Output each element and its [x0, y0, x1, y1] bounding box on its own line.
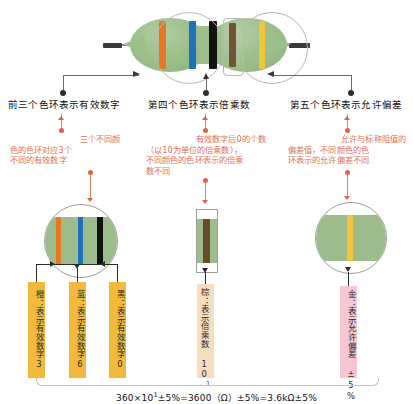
- formula-base: 360×10: [116, 393, 153, 403]
- explanation-first-three-line-2: 色的色环对应3个: [10, 145, 120, 156]
- leader-arrow-left: [133, 71, 140, 77]
- magnifier-outline-multiplier: [223, 18, 244, 76]
- leader-dot-right: [348, 90, 354, 96]
- summary-brace-left: [36, 378, 207, 386]
- leader-arrow-middle: [203, 73, 209, 79]
- leader-line-left-horizontal: [63, 75, 139, 76]
- detail-band-black: [97, 217, 103, 265]
- tolerance-arrow: [345, 267, 351, 272]
- multiplier-connector-v: [205, 272, 206, 284]
- left-lead-cap: [103, 43, 122, 48]
- detail-circle-tolerance: [315, 202, 387, 274]
- red-line-right-bottom: [347, 172, 348, 198]
- multiplier-arrow: [202, 268, 208, 273]
- digit-arrow-black: [100, 261, 105, 267]
- tolerance-connector-v: [348, 272, 349, 286]
- red-arrow-left-bottom: [87, 198, 93, 202]
- explanation-fourth-line-3: 不同颜色的色环表示的倍乘: [146, 155, 266, 166]
- result-formula: 360×101±5%=3600（Ω）±5%=3.6kΩ±5%: [116, 391, 317, 404]
- explanation-fourth: 有效数字后0的个数 （以10为单位的倍乘数）， 不同颜色的色环表示的倍乘 数不同: [146, 134, 266, 176]
- explanation-fourth-line-4: 数不同: [146, 166, 266, 177]
- digit-connector-black-v: [117, 264, 118, 282]
- red-dot-left-top: [59, 128, 64, 133]
- red-arrow-right-top: [344, 116, 350, 120]
- explanation-fourth-line-2: （以10为单位的倍乘数），: [146, 145, 266, 156]
- red-line-left-bottom: [90, 172, 91, 200]
- explanation-fifth-line-1: 允许与标称阻值的: [288, 134, 406, 145]
- detail-band-gold: [347, 215, 353, 261]
- leader-dot-middle: [203, 90, 209, 96]
- detail-band-orange: [56, 217, 61, 265]
- band-2-blue: [189, 21, 196, 69]
- band-3-black: [209, 21, 217, 69]
- red-line-middle-bottom: [205, 180, 206, 202]
- digit-arrow-orange: [50, 261, 55, 267]
- digit-connector-orange-v: [36, 264, 37, 282]
- red-arrow-right-bottom: [344, 196, 350, 200]
- digit-connector-blue-v: [77, 268, 78, 282]
- red-arrow-middle-top: [202, 116, 208, 120]
- right-lead-cap: [289, 43, 310, 48]
- leader-line-right-horizontal: [272, 75, 352, 76]
- chip-orange-digit3: 橙：表示有效数字3: [28, 282, 45, 378]
- red-arrow-middle-bottom: [202, 200, 208, 204]
- red-dot-middle-bottom: [203, 178, 208, 183]
- red-dot-left-bottom: [88, 170, 93, 175]
- band-1-orange: [159, 21, 166, 69]
- leader-arrow-right: [267, 71, 274, 77]
- chip-brown-multiplier-text: 棕：表示倍乘数 10: [199, 288, 209, 380]
- chip-black-digit0: 黑：表示有效数字0: [109, 282, 126, 378]
- detail-rect-multiplier: [196, 209, 218, 273]
- detail-band-brown: [203, 219, 210, 263]
- explanation-fifth: 允许与标称阻值的 偏差值，不同颜色的色 环表示的允许偏差不同: [288, 134, 406, 166]
- detail-circle-digits: [44, 204, 118, 278]
- chip-blue-digit6: 蓝：表示有效数字6: [69, 282, 86, 378]
- band-5-gold: [259, 21, 265, 69]
- main-resistor-illustration: [103, 14, 310, 76]
- explanation-first-three-line-3: 不同的有效数字: [10, 155, 120, 166]
- explanation-fourth-line-1: 有效数字后0的个数: [146, 134, 266, 145]
- detail-band-blue: [78, 217, 83, 265]
- formula-rest: ±5%=3600（Ω）±5%=3.6kΩ±5%: [158, 393, 317, 403]
- explanation-first-three: 三个不同颜 色的色环对应3个 不同的有效数字: [10, 134, 120, 166]
- red-arrow-left-top: [58, 116, 64, 120]
- red-dot-middle-top: [203, 128, 208, 133]
- explanation-fifth-line-2: 偏差值，不同颜色的色: [288, 145, 406, 156]
- explanation-first-three-line-1: 三个不同颜: [10, 134, 120, 145]
- diagram-canvas: 前三个色环表示有效数字 第四个色环表示倍乘数 第五个色环表示允许偏差 三个不同颜…: [0, 0, 413, 404]
- chip-brown-multiplier: 棕：表示倍乘数 101: [197, 284, 214, 378]
- heading-first-three-bands: 前三个色环表示有效数字: [8, 99, 120, 111]
- red-dot-right-bottom: [345, 170, 350, 175]
- chip-gold-tolerance: 金：表示允许偏差 ±5%: [340, 286, 357, 378]
- summary-brace-right: [206, 378, 379, 386]
- explanation-fifth-line-3: 环表示的允许偏差不同: [288, 155, 406, 166]
- heading-fourth-band: 第四个色环表示倍乘数: [148, 99, 250, 111]
- heading-fifth-band: 第五个色环表示允许偏差: [290, 99, 402, 111]
- red-dot-right-top: [345, 128, 350, 133]
- leader-dot-left: [60, 90, 66, 96]
- digit-arrow-blue: [74, 264, 80, 269]
